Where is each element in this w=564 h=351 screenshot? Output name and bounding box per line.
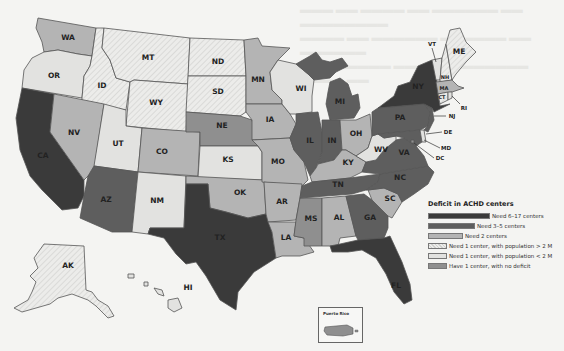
label-TX: TX <box>215 233 226 242</box>
label-AL: AL <box>334 213 345 222</box>
label-NJ: NJ <box>449 113 456 120</box>
label-NE: NE <box>216 121 227 130</box>
label-PA: PA <box>395 113 406 122</box>
label-NH: NH <box>441 74 449 80</box>
label-OH: OH <box>350 129 363 138</box>
state-HI[interactable] <box>168 298 182 312</box>
label-DC: DC <box>436 155 445 161</box>
label-RI: RI <box>461 105 467 111</box>
label-AK: AK <box>62 261 75 270</box>
legend-swatch <box>428 213 490 219</box>
legend: Deficit in ACHD centers Need 6–17 center… <box>428 200 564 271</box>
label-IN: IN <box>327 136 336 145</box>
label-WI: WI <box>295 84 306 93</box>
label-VT: VT <box>428 41 436 47</box>
us-map: WA OR CA ID NV MT WY UT AZ CO NM ND SD N… <box>0 0 564 351</box>
legend-swatch <box>428 233 463 239</box>
label-MS: MS <box>305 214 318 223</box>
legend-item-need3to5: Need 3–5 centers <box>428 221 564 230</box>
label-TN: TN <box>332 180 343 189</box>
label-AR: AR <box>276 197 288 206</box>
legend-swatch <box>428 253 447 259</box>
label-IA: IA <box>266 115 275 124</box>
legend-label: Need 1 center, with population > 2 M <box>449 243 552 249</box>
legend-title: Deficit in ACHD centers <box>428 200 564 208</box>
label-MA: MA <box>440 85 449 91</box>
label-FL: FL <box>391 281 401 290</box>
legend-label: Need 1 center, with population < 2 M <box>449 253 552 259</box>
label-NY: NY <box>412 82 424 91</box>
label-MO: MO <box>271 157 285 166</box>
legend-swatch <box>428 243 447 249</box>
label-OR: OR <box>48 71 60 80</box>
label-WY: WY <box>149 98 163 107</box>
label-OK: OK <box>234 188 247 197</box>
legend-swatch <box>428 263 447 269</box>
label-NV: NV <box>68 128 80 137</box>
state-HI-isle2[interactable] <box>154 288 164 296</box>
label-ID: ID <box>97 81 106 90</box>
legend-item-need6to17: Need 6–17 centers <box>428 211 564 220</box>
legend-item-need1small: Need 1 center, with population < 2 M <box>428 251 564 260</box>
legend-label: Need 2 centers <box>465 233 507 239</box>
label-HI: HI <box>183 283 192 292</box>
legend-label: Have 1 center, with no deficit <box>449 263 530 269</box>
label-NM: NM <box>150 196 164 205</box>
label-NC: NC <box>394 173 406 182</box>
label-MD: MD <box>441 145 451 151</box>
label-AZ: AZ <box>100 195 112 204</box>
label-WV: WV <box>374 145 388 154</box>
label-CO: CO <box>156 147 168 156</box>
label-ME: ME <box>453 47 466 56</box>
label-UT: UT <box>112 139 124 148</box>
label-CT: CT <box>438 94 446 100</box>
label-LA: LA <box>281 233 292 242</box>
legend-label: Need 6–17 centers <box>492 213 544 219</box>
label-SD: SD <box>212 87 224 96</box>
label-SC: SC <box>385 194 396 203</box>
state-DC[interactable] <box>411 140 414 143</box>
puerto-rico-shape <box>319 308 364 344</box>
puerto-rico-inset: Puerto Rico <box>318 307 363 343</box>
legend-label: Need 3–5 centers <box>477 223 525 229</box>
label-KS: KS <box>222 155 233 164</box>
label-IL: IL <box>306 136 314 145</box>
label-VA: VA <box>398 148 409 157</box>
label-MN: MN <box>251 75 265 84</box>
legend-item-nodeficit: Have 1 center, with no deficit <box>428 261 564 270</box>
legend-item-need1big: Need 1 center, with population > 2 M <box>428 241 564 250</box>
label-GA: GA <box>364 213 376 222</box>
legend-swatch <box>428 223 475 229</box>
label-MT: MT <box>142 53 155 62</box>
label-MI: MI <box>335 97 345 106</box>
label-KY: KY <box>342 158 354 167</box>
state-HI-isle3[interactable] <box>144 282 148 286</box>
legend-item-need2: Need 2 centers <box>428 231 564 240</box>
state-HI-isle4[interactable] <box>128 274 134 278</box>
label-DE: DE <box>444 129 453 135</box>
label-CA: CA <box>37 151 49 160</box>
label-ND: ND <box>212 57 225 66</box>
label-WA: WA <box>61 33 75 42</box>
state-RI[interactable] <box>448 92 452 100</box>
state-AK[interactable] <box>14 244 114 318</box>
state-CO[interactable] <box>138 128 200 176</box>
state-FL[interactable] <box>330 236 412 304</box>
